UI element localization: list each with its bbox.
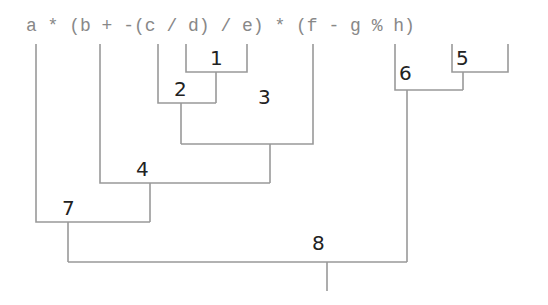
bracket-4: 4 (100, 44, 270, 222)
label-6: 6 (399, 61, 412, 85)
label-7: 7 (62, 196, 75, 220)
label-1: 1 (210, 46, 223, 70)
bracket-5: 5 (452, 44, 508, 90)
bracket-8: 8 (68, 231, 407, 291)
label-3: 3 (258, 85, 271, 109)
bracket-2: 2 (158, 44, 216, 144)
expression-tree-diagram: a * (b + -(c / d) / e) * (f - g % h) 1 2… (0, 0, 548, 305)
bracket-6: 6 (395, 44, 463, 262)
label-5: 5 (456, 46, 469, 70)
bracket-1: 1 (186, 44, 247, 103)
label-2: 2 (174, 77, 187, 101)
label-4: 4 (136, 157, 149, 181)
bracket-7: 7 (36, 44, 150, 262)
label-8: 8 (312, 231, 325, 255)
expression-text: a * (b + -(c / d) / e) * (f - g % h) (26, 16, 415, 36)
